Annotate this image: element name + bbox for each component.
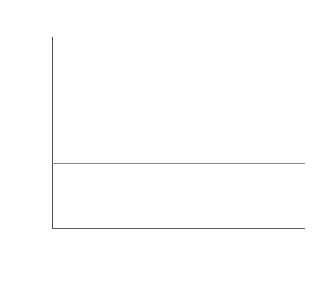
bar-chart-figure [0,0,321,292]
plot-area [52,30,305,230]
x-axis-line [52,228,305,229]
y-axis-line [52,37,53,228]
zero-baseline [52,163,305,164]
